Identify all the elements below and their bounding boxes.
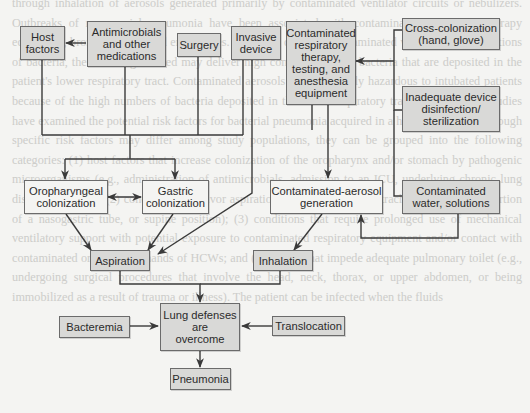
- node-gastric-colonization: Gastric colonization: [142, 180, 209, 214]
- node-inhalation: Inhalation: [253, 250, 313, 271]
- node-label: Gastric colonization: [146, 185, 205, 209]
- edge-aerosol-inhalation: [294, 214, 322, 250]
- node-label: Cross-colonization (hand, glove): [405, 22, 497, 46]
- node-pneumonia: Pneumonia: [170, 368, 231, 390]
- node-antimicrobials: Antimicrobials and other medications: [87, 21, 166, 67]
- node-label: Bacteremia: [66, 321, 123, 333]
- node-label: Host factors: [26, 31, 60, 55]
- edge-gastric-aspiration: [148, 214, 173, 250]
- node-label: Inhalation: [259, 255, 308, 267]
- node-oropharyngeal-colonization: Oropharyngeal colonization: [24, 180, 108, 214]
- node-contaminated-aerosol: Contaminated-aerosol generation: [270, 180, 383, 214]
- edge-disinfection-water: [394, 110, 402, 196]
- node-label: Aspiration: [95, 255, 145, 267]
- node-invasive-device: Invasive device: [231, 26, 281, 60]
- node-label: Contaminated respiratory therapy, testin…: [286, 27, 356, 99]
- node-inadequate-disinfection: Inadequate device disinfection/ steriliz…: [402, 86, 500, 132]
- node-translocation: Translocation: [272, 316, 345, 336]
- node-surgery: Surgery: [177, 33, 221, 57]
- edge-cross-bus: [394, 30, 402, 110]
- node-label: Inadequate device disinfection/ steriliz…: [405, 91, 496, 127]
- node-label: Pneumonia: [172, 373, 229, 385]
- node-lung-defenses: Lung defenses are overcome: [160, 303, 240, 351]
- node-label: Contaminated water, solutions: [412, 185, 489, 209]
- edge-aspiration-lung: [120, 270, 200, 302]
- node-aspiration: Aspiration: [90, 250, 150, 271]
- node-label: Surgery: [179, 39, 218, 51]
- node-contaminated-equipment: Contaminated respiratory therapy, testin…: [286, 21, 356, 105]
- edge-oropharyngeal-aspiration: [66, 214, 91, 250]
- node-host-factors: Host factors: [20, 26, 65, 60]
- node-cross-colonization: Cross-colonization (hand, glove): [402, 18, 500, 50]
- node-contaminated-water: Contaminated water, solutions: [402, 180, 500, 214]
- node-label: Oropharyngeal colonization: [29, 185, 103, 209]
- node-label: Translocation: [275, 320, 342, 332]
- edge-invasive-aspiration: [158, 60, 252, 254]
- node-label: Antimicrobials and other medications: [92, 26, 162, 62]
- node-label: Invasive device: [235, 31, 276, 55]
- node-label: Contaminated-aerosol generation: [271, 185, 381, 209]
- edge-water-aerosol: [361, 213, 458, 238]
- node-bacteremia: Bacteremia: [59, 316, 130, 338]
- edge-inhalation-lung: [200, 270, 280, 284]
- node-label: Lung defenses are overcome: [163, 309, 236, 345]
